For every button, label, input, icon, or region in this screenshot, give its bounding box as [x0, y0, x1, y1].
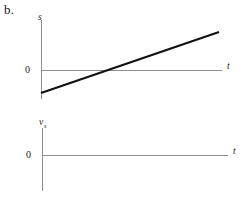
bottom-chart-velocity-vs-time: v s t 0 — [26, 117, 236, 191]
bottom-chart-origin-label: 0 — [26, 149, 31, 160]
figure-container: b. s t 0 v s t 0 — [0, 0, 248, 205]
top-chart-data-line — [41, 32, 219, 93]
figure-svg: s t 0 v s t 0 — [0, 0, 248, 205]
top-chart-y-axis-label: s — [38, 12, 42, 22]
top-chart-position-vs-time: s t 0 — [25, 12, 230, 99]
bottom-chart-y-axis-subscript: s — [44, 122, 47, 129]
top-chart-origin-label: 0 — [25, 64, 30, 75]
bottom-chart-x-axis-label: t — [233, 146, 236, 156]
top-chart-x-axis-label: t — [227, 61, 230, 71]
